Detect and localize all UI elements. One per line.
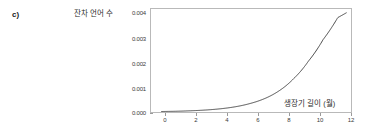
x-tick-mark	[289, 113, 290, 116]
x-tick-label: 8	[282, 117, 296, 124]
y-tick-label: 0.002	[120, 61, 146, 68]
x-tick-label: 2	[189, 117, 203, 124]
y-tick-label: 0.001	[120, 86, 146, 93]
y-tick-label: 0.000	[120, 110, 146, 117]
x-axis-title: 생장기 길이 (월)	[284, 99, 335, 109]
curve-path	[161, 13, 346, 112]
x-tick-label: 4	[220, 117, 234, 124]
x-tick-mark	[196, 113, 197, 116]
plot-area: 생장기 길이 (월)	[150, 8, 352, 113]
y-tick-label: 0.004	[120, 10, 146, 17]
exponential-curve	[151, 9, 351, 112]
x-tick-mark	[258, 113, 259, 116]
x-tick-mark	[351, 113, 352, 116]
x-tick-mark	[165, 113, 166, 116]
y-axis-title: 잔차 언어 수	[74, 9, 113, 19]
panel-label: c)	[12, 10, 19, 20]
x-tick-label: 0	[158, 117, 172, 124]
figure-panel-c: c) 잔차 언어 수 0.004 0.003 0.002 0.001 0.000…	[0, 0, 365, 133]
x-tick-label: 10	[313, 117, 327, 124]
x-tick-mark	[227, 113, 228, 116]
y-tick-label: 0.003	[120, 36, 146, 43]
x-tick-label: 6	[251, 117, 265, 124]
x-tick-mark	[320, 113, 321, 116]
x-tick-label: 12	[344, 117, 358, 124]
y-tick-mark	[150, 113, 153, 114]
